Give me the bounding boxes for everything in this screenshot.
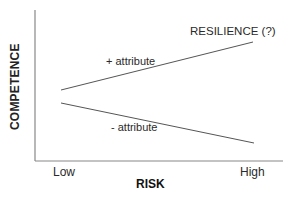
positive-attribute-label: + attribute <box>106 55 155 67</box>
resilience-annotation: RESILIENCE (?) <box>190 25 276 37</box>
x-tick-low: Low <box>53 165 75 179</box>
x-axis-label: RISK <box>136 177 165 191</box>
y-axis-label: COMPETENCE <box>8 43 22 130</box>
positive-attribute-line <box>61 42 253 90</box>
negative-attribute-line <box>61 103 254 143</box>
x-tick-high: High <box>240 165 265 179</box>
negative-attribute-label: - attribute <box>111 121 157 133</box>
